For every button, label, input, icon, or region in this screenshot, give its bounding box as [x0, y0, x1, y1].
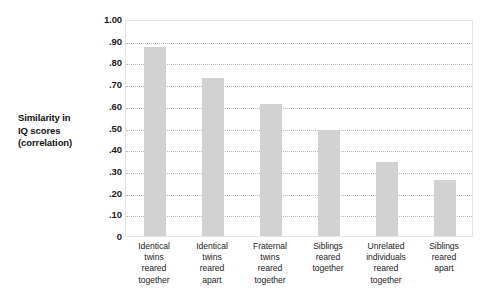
x-axis-category-label-line: together [353, 275, 419, 286]
gridline [126, 43, 472, 44]
gridline [126, 151, 472, 152]
x-axis-category-label-line: together [121, 275, 187, 286]
x-axis-category-label-line: Identical [121, 241, 187, 252]
gridline [126, 195, 472, 196]
x-axis-category-label-line: Siblings [295, 241, 361, 252]
x-axis-category-label-line: Unrelated [353, 241, 419, 252]
x-axis-category-label-line: apart [179, 275, 245, 286]
x-axis-category-label: Unrelatedindividualsrearedtogether [353, 241, 419, 286]
y-axis-tick-label: .60 [82, 101, 122, 112]
x-axis-category-label-line: reared [179, 263, 245, 274]
x-axis-category-label-line: reared [411, 252, 477, 263]
x-axis-category-label: Siblingsrearedtogether [295, 241, 361, 275]
y-axis-tick-label: .20 [82, 188, 122, 199]
x-axis-category-label-line: reared [121, 263, 187, 274]
y-axis-tick-labels: 1.00.90.80.70.60.50.40.30.20.100 [78, 20, 122, 237]
plot-inner [126, 21, 472, 236]
x-axis-category-label-line: reared [353, 263, 419, 274]
bar [434, 180, 456, 236]
x-axis-category-label: Identicaltwinsrearedtogether [121, 241, 187, 286]
bar [202, 78, 224, 236]
iq-similarity-bar-chart: Similarity in IQ scores (correlation) 1.… [0, 0, 496, 303]
y-axis-tick-label: 0 [82, 231, 122, 242]
x-axis-category-label-line: together [295, 263, 361, 274]
gridline [126, 216, 472, 217]
gridline [126, 130, 472, 131]
bar [376, 162, 398, 236]
x-axis-category-label-line: reared [295, 252, 361, 263]
y-axis-tick-label: 1.00 [82, 14, 122, 25]
x-axis-category-label: Siblingsrearedapart [411, 241, 477, 275]
bar [260, 104, 282, 236]
x-axis-category-label-line: Siblings [411, 241, 477, 252]
x-axis-category-label-line: individuals [353, 252, 419, 263]
x-axis-category-label: Fraternaltwinsrearedtogether [237, 241, 303, 286]
y-axis-tick-label: .80 [82, 57, 122, 68]
x-axis-category-label: Identicaltwinsrearedapart [179, 241, 245, 286]
y-axis-tick-label: .70 [82, 79, 122, 90]
x-axis-category-label-line: twins [179, 252, 245, 263]
x-axis-category-label-line: Identical [179, 241, 245, 252]
x-axis-category-label-line: Fraternal [237, 241, 303, 252]
gridline [126, 108, 472, 109]
plot-area [125, 20, 473, 237]
x-axis-category-label-line: together [237, 275, 303, 286]
bar [144, 47, 166, 236]
x-axis-category-label-line: twins [121, 252, 187, 263]
y-axis-tick-label: .50 [82, 123, 122, 134]
x-axis-category-label-line: reared [237, 263, 303, 274]
x-axis-category-labels: IdenticaltwinsrearedtogetherIdenticaltwi… [125, 241, 473, 303]
y-axis-tick-label: .10 [82, 209, 122, 220]
gridline [126, 173, 472, 174]
y-axis-tick-label: .40 [82, 144, 122, 155]
y-axis-tick-label: .90 [82, 36, 122, 47]
bar [318, 130, 340, 236]
gridline [126, 64, 472, 65]
x-axis-category-label-line: apart [411, 263, 477, 274]
gridline [126, 86, 472, 87]
y-axis-tick-label: .30 [82, 166, 122, 177]
x-axis-category-label-line: twins [237, 252, 303, 263]
